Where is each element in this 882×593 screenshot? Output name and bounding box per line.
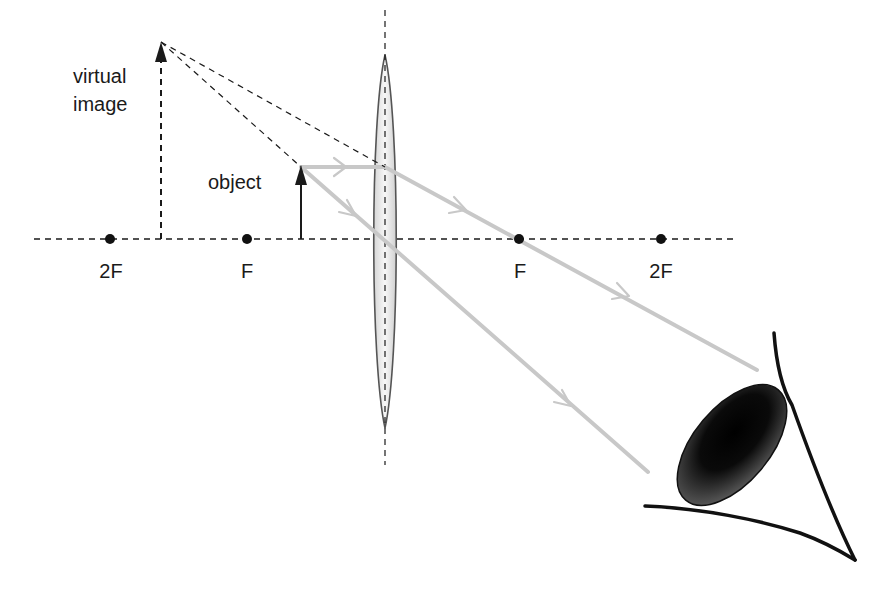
lens-ray-diagram — [0, 0, 882, 593]
convex-lens — [374, 10, 397, 465]
virtual-image-label-line1: virtual — [73, 64, 126, 88]
parallel-ray — [301, 167, 757, 370]
focal-point-f-right — [514, 234, 524, 244]
label-f-right: F — [514, 259, 526, 283]
virtual-ray-extensions — [161, 42, 385, 167]
label-2f-right: 2F — [649, 259, 672, 283]
focal-point-2f-right — [656, 234, 666, 244]
label-f-left: F — [241, 259, 253, 283]
object-arrow — [295, 165, 307, 239]
virtual-image-label-line2: image — [73, 92, 127, 116]
eyelid-upper — [774, 333, 855, 560]
light-rays — [301, 158, 757, 472]
object-label: object — [208, 170, 261, 194]
eyelid-lower — [645, 506, 855, 560]
virtual-image-arrow — [155, 42, 167, 239]
focal-point-f-left — [242, 234, 252, 244]
focal-point-2f-left — [105, 234, 115, 244]
label-2f-left: 2F — [99, 259, 122, 283]
